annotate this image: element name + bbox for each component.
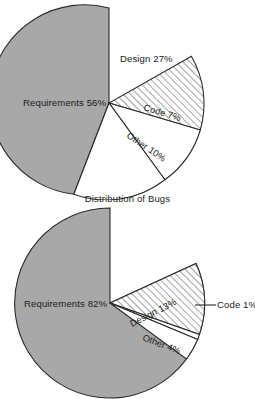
pie-chart-figure: Requirements 56% Design 27% Code 7% Othe… xyxy=(0,0,255,399)
pie-label-design-chart1: Design 27% xyxy=(120,53,173,64)
pie-label-requirements-chart1: Requirements 56% xyxy=(23,97,107,108)
pie-chart-distribution-of-effort: Requirements 82% Design 13% Code 1% Othe… xyxy=(0,205,255,399)
pie-chart-distribution-of-bugs: Requirements 56% Design 27% Code 7% Othe… xyxy=(0,0,255,200)
chart-caption-distribution-of-bugs: Distribution of Bugs xyxy=(0,193,255,204)
pie-label-code-chart2: Code 1% xyxy=(217,299,255,310)
pie-label-requirements-chart2: Requirements 82% xyxy=(24,298,108,309)
